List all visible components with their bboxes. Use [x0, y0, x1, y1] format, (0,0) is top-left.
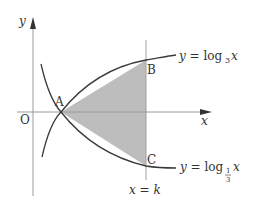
point-b-label: B [147, 63, 156, 77]
y-axis-arrow-icon [30, 17, 36, 29]
equation-log-one-third: y = log 1 3 x [179, 160, 240, 184]
equation-log3: y = log 3 x [178, 49, 238, 65]
graph-svg: y x O A B C y = log 3 x y = log 1 3 x x … [0, 0, 255, 212]
x-equals-k-label: x = k [129, 183, 161, 197]
origin-label: O [20, 113, 30, 127]
point-a-label: A [54, 95, 64, 109]
y-axis-label: y [18, 14, 26, 28]
log3-base: 3 [225, 56, 230, 65]
svg-text:y = log: y = log [178, 49, 223, 63]
log-one-third-base-den: 3 [226, 176, 230, 184]
point-c-label: C [147, 153, 156, 167]
log-one-third-var: x [233, 160, 240, 174]
log3-var: x [231, 49, 238, 63]
shaded-triangle-abc [61, 60, 146, 166]
log-one-third-base-num: 1 [226, 167, 230, 175]
svg-text:y = log: y = log [179, 160, 224, 174]
x-axis-label: x [201, 114, 208, 128]
diagram-canvas: y x O A B C y = log 3 x y = log 1 3 x x … [0, 0, 255, 212]
